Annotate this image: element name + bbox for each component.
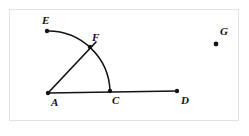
segment-ad [48,91,177,93]
point-marker-a [46,91,50,95]
figure-caption [62,126,188,136]
point-marker-e [45,29,49,33]
segment-af [48,42,96,93]
point-marker-f [88,45,92,49]
point-label-d: D [181,95,189,106]
geometry-figure [0,0,249,136]
point-marker-c [108,89,112,93]
point-label-a: A [51,97,58,108]
point-marker-d [175,89,179,93]
point-label-g: G [220,26,228,37]
point-label-f: F [92,32,99,43]
point-marker-g [214,42,219,47]
figure-page: E F G A C D [0,0,249,136]
point-label-c: C [112,95,119,106]
point-label-e: E [42,15,49,26]
